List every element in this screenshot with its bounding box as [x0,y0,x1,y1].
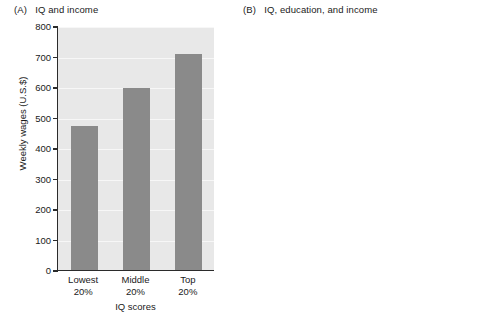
bar [123,88,150,270]
panel-a: (A) IQ and income Weekly wages (U.S.$) 0… [0,0,240,321]
panel-b-tag: (B) [243,4,256,15]
panel-a-x-categories: Lowest20%Middle20%Top20% [57,274,214,297]
y-tick-label: 400 [35,144,51,154]
figure-root: (A) IQ and income Weekly wages (U.S.$) 0… [0,0,484,321]
x-category-line: Middle [109,274,161,286]
y-tick-label: 100 [35,236,51,246]
y-tick-label: 0 [46,266,51,276]
panel-a-x-axis-title: IQ scores [57,301,214,312]
panel-a-title-text: IQ and income [35,4,98,15]
panel-b-title: (B) IQ, education, and income [243,4,378,15]
bar-group [162,27,214,270]
x-category-line: Top [162,274,214,286]
bar-group [110,27,162,270]
panel-b-title-text: IQ, education, and income [264,4,377,15]
panel-a-tag: (A) [14,4,27,15]
x-category-label: Lowest20% [57,274,109,297]
panel-b: (B) IQ, education, and income Weekly wag… [240,0,484,321]
panel-a-title: (A) IQ and income [14,4,98,15]
y-tick-label: 600 [35,83,51,93]
x-category-line: Lowest [57,274,109,286]
y-tick [53,270,58,271]
y-tick-label: 500 [35,114,51,124]
bar [71,126,98,270]
x-category-label: Middle20% [109,274,161,297]
y-tick-label: 300 [35,175,51,185]
y-tick-label: 800 [35,22,51,32]
x-category-label: Top20% [162,274,214,297]
x-category-line: 20% [57,286,109,298]
panel-a-bars [58,27,214,270]
x-category-line: 20% [162,286,214,298]
panel-a-plot-area: 0100200300400500600700800 [57,27,214,271]
bar-group [58,27,110,270]
y-tick-label: 200 [35,205,51,215]
panel-a-y-axis-title: Weekly wages (U.S.$) [17,77,28,171]
y-tick-label: 700 [35,53,51,63]
bar [175,54,202,270]
x-category-line: 20% [109,286,161,298]
